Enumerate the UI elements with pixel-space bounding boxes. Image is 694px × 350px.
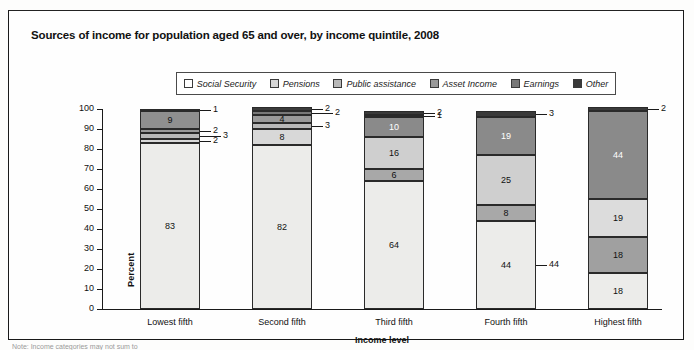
bar-segment-callout-value: 2 [213,125,218,135]
y-axis-tick: 10 [97,289,102,290]
x-axis-tick-label: Third fifth [354,317,434,327]
bar-segment: 18 [588,273,648,309]
legend-swatch-icon [184,79,193,88]
bar-segment-callout-value: 3 [223,130,228,140]
bar-segment: 8 [252,129,312,145]
legend-item-label: Social Security [197,79,257,89]
y-axis-tick: 40 [97,229,102,230]
bar-segment-value: 64 [389,241,399,250]
bar-segment: 9 [140,111,200,129]
callout-leader-line [424,113,435,114]
page-title: Sources of income for population aged 65… [31,29,439,41]
y-axis-tick: 50 [97,209,102,210]
callout-leader-line [200,110,211,111]
bar-segment: 16 [364,137,424,169]
x-axis-tick-label: Highest fifth [578,317,658,327]
x-axis-line [102,309,662,310]
legend-item: Social Security [184,79,257,89]
callout-leader-line [648,109,659,110]
bar-segment [364,115,424,117]
bar-segment: 18 [588,237,648,273]
bar-segment [140,109,200,111]
callout-leader-line [424,116,435,117]
bar-segment: 6 [364,169,424,181]
plot-area: Percent Income level 1009080706050403020… [102,109,662,309]
y-axis-tick: 100 [97,109,102,110]
bar-segment: 19 [588,199,648,237]
legend-item-label: Pensions [283,79,320,89]
bar-segment: 83 [140,143,200,309]
legend-item: Public assistance [333,79,416,89]
y-axis-tick-label: 20 [84,263,94,273]
bar-segment: 82 [252,145,312,309]
bar-segment-callout-value: 2 [325,103,330,113]
callout-leader-line [312,113,333,114]
figure-frame: Sources of income for population aged 65… [8,10,684,340]
bar-segment-callout-value: 2 [437,107,442,117]
legend-swatch-icon [430,79,439,88]
bar-stack: 839 [140,109,200,309]
y-axis-tick: 0 [97,309,102,310]
bar-segment: 10 [364,117,424,137]
bar-segment-callout-value: 3 [325,120,330,130]
callout-leader-line [200,141,211,142]
legend-swatch-icon [270,79,279,88]
bar-segment: 4 [252,115,312,123]
callout-leader-line [536,114,547,115]
bar-segment-value: 8 [279,133,284,142]
bar-segment-callout-value: 2 [335,107,340,117]
x-axis-tick-label: Second fifth [242,317,322,327]
y-axis-tick-label: 0 [89,303,94,313]
bar-segment: 64 [364,181,424,309]
legend-item-label: Earnings [524,79,560,89]
bar-segment-value: 44 [613,151,623,160]
bar-segment-value: 8 [503,209,508,218]
x-axis-tick-label: Fourth fifth [466,317,546,327]
bar-segment-value: 16 [389,149,399,158]
callout-leader-line [200,131,211,132]
y-axis-tick-label: 10 [84,283,94,293]
y-axis-tick: 70 [97,169,102,170]
bar-segment-value: 82 [277,223,287,232]
bar-segment: 25 [476,155,536,205]
y-axis-line [102,109,103,309]
bar-segment-value: 9 [167,116,172,125]
bar-segment-value: 19 [613,214,623,223]
y-axis-tick: 90 [97,129,102,130]
y-axis-tick: 60 [97,189,102,190]
bar-segment: 19 [476,117,536,155]
callout-leader-line [200,136,221,137]
legend-item: Other [573,79,609,89]
y-axis-tick-label: 100 [79,103,94,113]
legend-item-label: Other [586,79,609,89]
callout-leader-line [312,109,323,110]
bar-segment-value: 19 [501,132,511,141]
bar-segment-value: 10 [389,123,399,132]
bar-segment-value: 6 [391,171,396,180]
y-axis-tick-label: 60 [84,183,94,193]
callout-leader-line [536,265,547,266]
bar-segment-value: 25 [501,176,511,185]
figure-root: Sources of income for population aged 65… [0,0,694,350]
callout-leader-line [312,126,323,127]
y-axis-tick-label: 90 [84,123,94,133]
bar-segment [364,111,424,115]
bar-segment [140,129,200,133]
bar-segment-value: 18 [613,251,623,260]
legend-swatch-icon [573,79,582,88]
legend-swatch-icon [511,79,520,88]
bar-segment [588,107,648,111]
legend-swatch-icon [333,79,342,88]
y-axis-tick-label: 40 [84,223,94,233]
bar-segment: 44 [588,111,648,199]
y-axis-tick-label: 80 [84,143,94,153]
bar-stack: 4482519 [476,109,536,309]
bar-stack: 18181944 [588,109,648,309]
y-axis-tick: 20 [97,269,102,270]
chart-legend: Social SecurityPensionsPublic assistance… [176,72,616,95]
y-axis-tick-label: 50 [84,203,94,213]
bar-segment-value: 83 [165,222,175,231]
y-axis-tick: 80 [97,149,102,150]
y-axis-title: Percent [126,253,136,287]
footnote: Note: Income categories may not sum to [12,343,138,350]
